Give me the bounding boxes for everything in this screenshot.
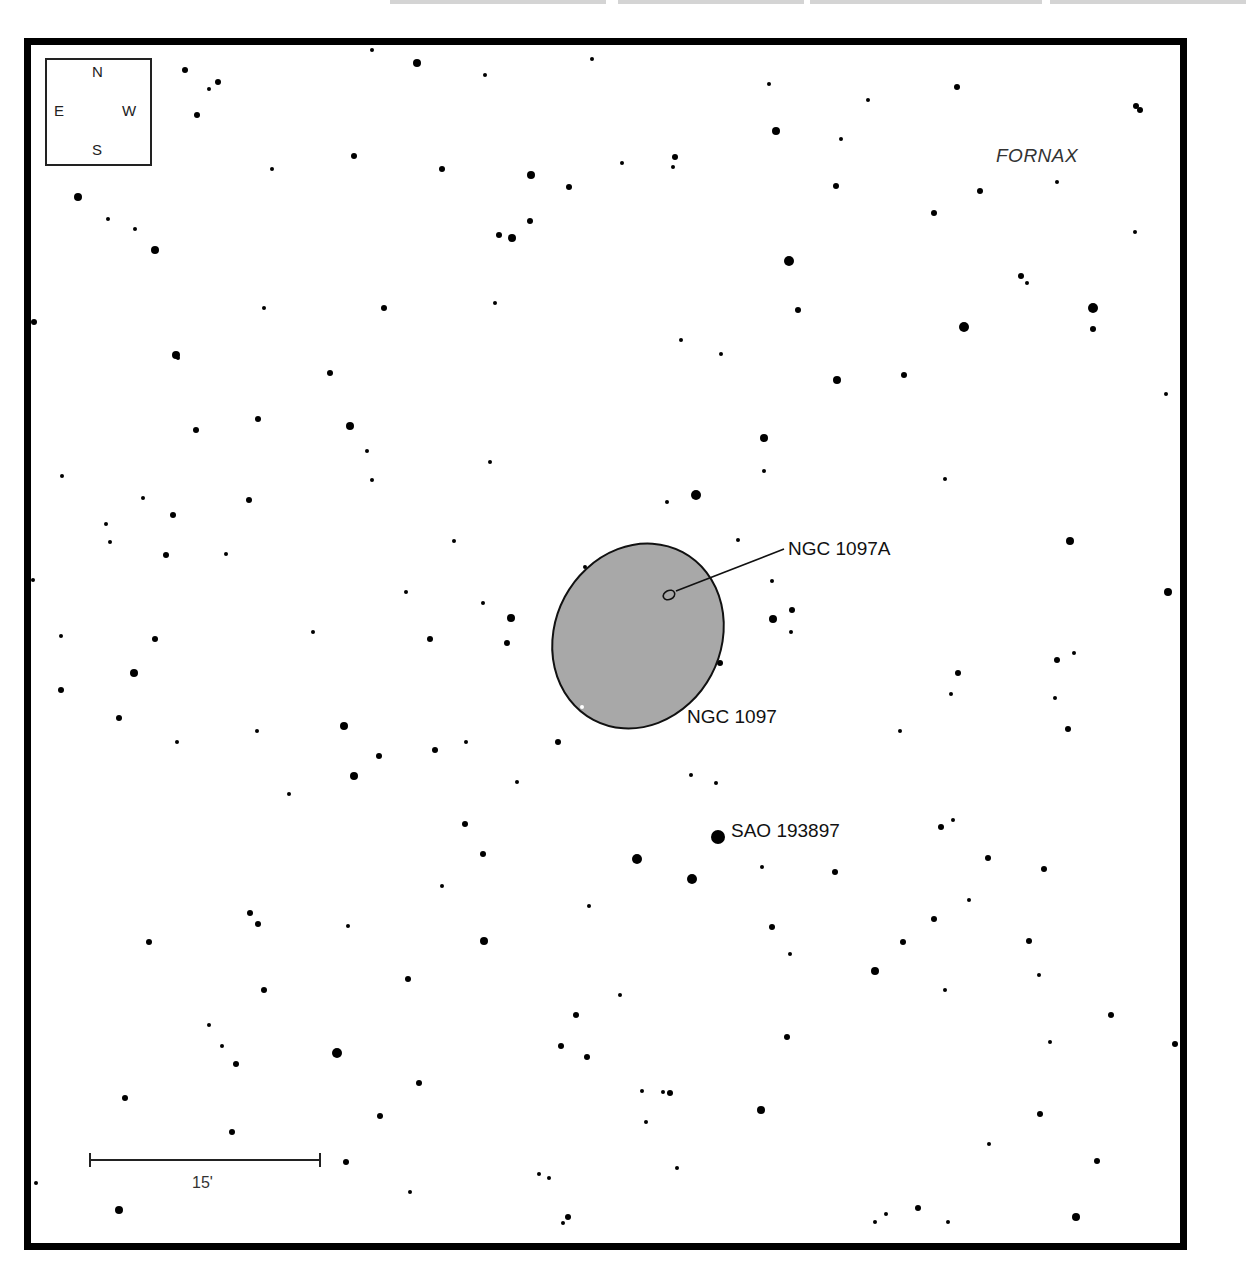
- star: [405, 976, 411, 982]
- star: [789, 607, 795, 613]
- star: [772, 127, 780, 135]
- star: [106, 217, 110, 221]
- star: [116, 715, 122, 721]
- star: [515, 780, 519, 784]
- star: [584, 1054, 590, 1060]
- star: [508, 234, 516, 242]
- star: [985, 855, 991, 861]
- star: [832, 869, 838, 875]
- star: [760, 434, 768, 442]
- star: [1164, 392, 1168, 396]
- star: [833, 376, 841, 384]
- star: [667, 1090, 673, 1096]
- star: [675, 1166, 679, 1170]
- star: [943, 988, 947, 992]
- star: [931, 210, 937, 216]
- star: [1055, 180, 1059, 184]
- star: [480, 937, 488, 945]
- star: [632, 854, 642, 864]
- star: [527, 218, 533, 224]
- star: [671, 165, 675, 169]
- star: [58, 687, 64, 693]
- star: [1094, 1158, 1100, 1164]
- star: [432, 747, 438, 753]
- star: [233, 1061, 239, 1067]
- star: [462, 821, 468, 827]
- star: [327, 370, 333, 376]
- star: [1088, 303, 1098, 313]
- star: [194, 112, 200, 118]
- star: [873, 1220, 877, 1224]
- star: [915, 1205, 921, 1211]
- star: [262, 306, 266, 310]
- star: [1172, 1041, 1178, 1047]
- star: [949, 692, 953, 696]
- star: [152, 636, 158, 642]
- star: [938, 824, 944, 830]
- star: [1090, 326, 1096, 332]
- star: [287, 792, 291, 796]
- star: [261, 987, 267, 993]
- star: [229, 1129, 235, 1135]
- star: [839, 137, 843, 141]
- star: [351, 153, 357, 159]
- star: [1072, 651, 1076, 655]
- star: [370, 48, 374, 52]
- star: [1037, 1111, 1043, 1117]
- star: [60, 474, 64, 478]
- star: [1037, 973, 1041, 977]
- star: [246, 497, 252, 503]
- star: [565, 1214, 571, 1220]
- star: [247, 910, 253, 916]
- star: [1066, 537, 1074, 545]
- star: [987, 1142, 991, 1146]
- star: [350, 772, 358, 780]
- star: [951, 818, 955, 822]
- star: [687, 874, 697, 884]
- star: [527, 171, 535, 179]
- star: [370, 478, 374, 482]
- ngc-1097-label: NGC 1097: [687, 707, 777, 726]
- star: [871, 967, 879, 975]
- sao-193897-star[interactable]: [711, 830, 725, 844]
- star: [1133, 230, 1137, 234]
- star: [376, 753, 382, 759]
- star: [31, 578, 35, 582]
- star: [573, 1012, 579, 1018]
- star-in-galaxy: [580, 705, 584, 709]
- star: [795, 307, 801, 313]
- star: [439, 166, 445, 172]
- star: [1072, 1213, 1080, 1221]
- ngc-1097a-label: NGC 1097A: [788, 539, 890, 558]
- star: [901, 372, 907, 378]
- star: [1018, 273, 1024, 279]
- star: [665, 500, 669, 504]
- star: [104, 522, 108, 526]
- star: [488, 460, 492, 464]
- star: [452, 539, 456, 543]
- star: [504, 640, 510, 646]
- star: [1065, 726, 1071, 732]
- star: [163, 552, 169, 558]
- star: [898, 729, 902, 733]
- star: [404, 590, 408, 594]
- star: [493, 301, 497, 305]
- star: [679, 338, 683, 342]
- star: [207, 1023, 211, 1027]
- star: [1025, 281, 1029, 285]
- star: [762, 469, 766, 473]
- star: [644, 1120, 648, 1124]
- star: [207, 87, 211, 91]
- star: [977, 188, 983, 194]
- star: [74, 193, 82, 201]
- star: [34, 1181, 38, 1185]
- star: [31, 319, 37, 325]
- star: [130, 669, 138, 677]
- compass-south-label: S: [92, 142, 102, 157]
- star: [620, 161, 624, 165]
- star: [547, 1176, 551, 1180]
- star: [59, 634, 63, 638]
- star: [767, 82, 771, 86]
- scale-bar-label: 15': [192, 1174, 213, 1192]
